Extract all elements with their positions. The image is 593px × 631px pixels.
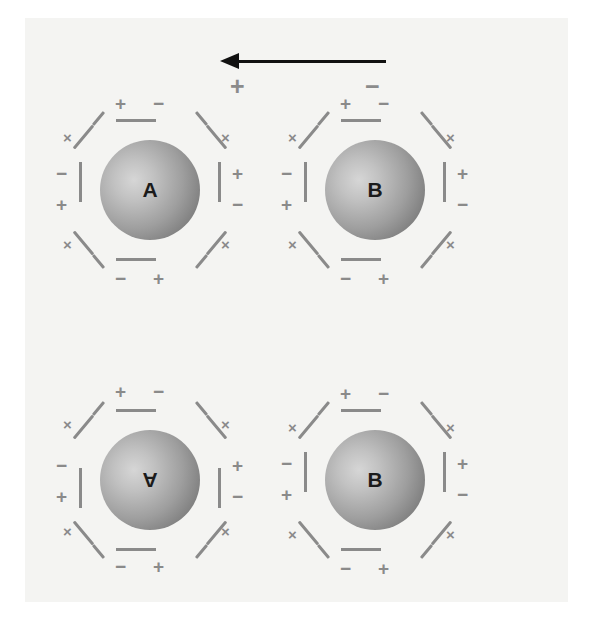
particle-sphere-b-top-right: B: [325, 140, 425, 240]
sign-right-top: −: [232, 487, 243, 506]
tick-top-left-short: [317, 111, 330, 126]
particle-label: A: [142, 178, 157, 202]
field-arrow-shaft: [234, 60, 386, 63]
sign-bottom-left: −: [340, 559, 351, 578]
tick-bottom-right-short: [195, 401, 208, 416]
particle-cell-bottom-right: B + − − + − + + − × × × ×: [277, 382, 473, 578]
sign-bottom-right: −: [153, 382, 164, 401]
tick-bottom-left-short: [317, 254, 330, 269]
charge-bar-right: [218, 162, 221, 202]
cross-top-left: ×: [63, 525, 72, 540]
sign-bottom-left: −: [115, 269, 126, 288]
sign-right-bottom: −: [457, 195, 468, 214]
tick-bottom-left-short: [317, 544, 330, 559]
cross-top-right: ×: [221, 525, 230, 540]
tick-top-left-long: [73, 521, 95, 546]
sign-left-bottom: +: [281, 485, 292, 504]
charge-bar-left: [304, 162, 307, 202]
particle-sphere-b-bottom-right: B: [325, 430, 425, 530]
tick-top-left-long: [298, 415, 320, 440]
cross-top-left: ×: [288, 130, 297, 145]
cross-bottom-right: ×: [446, 527, 455, 542]
sign-top-right: −: [378, 384, 389, 403]
tick-bottom-left-long: [73, 415, 95, 440]
tick-bottom-left-long: [298, 231, 320, 256]
cross-bottom-right: ×: [221, 418, 230, 433]
tick-top-right-short: [195, 544, 208, 559]
charge-bar-left: [79, 468, 82, 508]
tick-bottom-right-short: [195, 254, 208, 269]
sign-top-left: +: [340, 94, 351, 113]
cross-bottom-right: ×: [221, 237, 230, 252]
particle-label: B: [367, 178, 382, 202]
diagram-panel: + − A + − − + − + + − × × × × B: [25, 18, 568, 602]
sign-right-bottom: +: [232, 456, 243, 475]
tick-bottom-left-long: [73, 231, 95, 256]
cross-top-right: ×: [221, 130, 230, 145]
sign-left-top: −: [281, 164, 292, 183]
figure-canvas: + − A + − − + − + + − × × × × B: [0, 0, 593, 631]
charge-bar-bottom: [116, 258, 156, 261]
tick-top-left-long: [298, 125, 320, 150]
charge-bar-right: [443, 452, 446, 492]
sign-right-top: +: [457, 164, 468, 183]
tick-bottom-left-short: [92, 401, 105, 416]
cross-bottom-left: ×: [288, 527, 297, 542]
charge-bar-top: [116, 548, 156, 551]
tick-top-right-short: [420, 111, 433, 126]
field-arrow-head-icon: [220, 53, 239, 69]
sign-top-left: −: [115, 557, 126, 576]
sign-top-right: +: [153, 557, 164, 576]
tick-top-right-short: [195, 111, 208, 126]
charge-bar-right: [443, 162, 446, 202]
sign-bottom-right: +: [378, 269, 389, 288]
charge-bar-bottom: [341, 258, 381, 261]
particle-sphere-a-top-left: A: [100, 140, 200, 240]
charge-bar-left: [79, 162, 82, 202]
sign-left-top: −: [56, 164, 67, 183]
particle-cell-bottom-left: A − + + − + − − + × × × ×: [52, 382, 248, 578]
sign-top-left: +: [340, 384, 351, 403]
cross-bottom-right: ×: [446, 237, 455, 252]
tick-top-left-short: [92, 111, 105, 126]
charge-bar-right: [218, 468, 221, 508]
tick-top-right-short: [420, 401, 433, 416]
sign-left-bottom: +: [281, 195, 292, 214]
sign-left-bottom: −: [56, 456, 67, 475]
sign-bottom-left: +: [115, 382, 126, 401]
charge-bar-bottom: [116, 409, 156, 412]
sign-right-top: +: [457, 454, 468, 473]
cross-bottom-left: ×: [63, 418, 72, 433]
sign-left-top: +: [56, 487, 67, 506]
charge-bar-top: [341, 409, 381, 412]
tick-bottom-left-short: [92, 254, 105, 269]
cross-top-right: ×: [446, 130, 455, 145]
sign-right-bottom: −: [457, 485, 468, 504]
tick-top-left-short: [317, 401, 330, 416]
sign-left-top: −: [281, 454, 292, 473]
particle-cell-top-right: B + − − + − + + − × × × ×: [277, 92, 473, 288]
sign-right-top: +: [232, 164, 243, 183]
particle-sphere-a-bottom-left: A: [100, 430, 200, 530]
sign-top-right: −: [378, 94, 389, 113]
particle-label: B: [367, 468, 382, 492]
particle-cell-top-left: A + − − + − + + − × × × ×: [52, 92, 248, 288]
tick-bottom-right-short: [420, 544, 433, 559]
sign-top-left: +: [115, 94, 126, 113]
particle-label: A: [142, 468, 157, 492]
cross-top-left: ×: [288, 420, 297, 435]
charge-bar-left: [304, 452, 307, 492]
sign-left-bottom: +: [56, 195, 67, 214]
charge-bar-bottom: [341, 548, 381, 551]
sign-bottom-right: +: [153, 269, 164, 288]
tick-bottom-right-short: [420, 254, 433, 269]
sign-bottom-left: −: [340, 269, 351, 288]
cross-top-left: ×: [63, 130, 72, 145]
sign-bottom-right: +: [378, 559, 389, 578]
tick-top-left-short: [92, 544, 105, 559]
tick-top-left-long: [73, 125, 95, 150]
tick-bottom-left-long: [298, 521, 320, 546]
cross-top-right: ×: [446, 420, 455, 435]
cross-bottom-left: ×: [288, 237, 297, 252]
cross-bottom-left: ×: [63, 237, 72, 252]
